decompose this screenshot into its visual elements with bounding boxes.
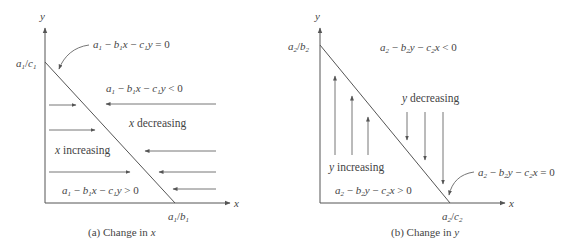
label-y-increasing: y increasing [328, 161, 384, 174]
y-axis-label-a: y [39, 10, 45, 22]
x-axis-label-b: x [508, 197, 514, 209]
y-intercept-a: a1/c1 [16, 57, 36, 71]
y-intercept-b: a2/b2 [288, 40, 310, 54]
isocline-label-a: a1 − b1x − c1y = 0 [93, 38, 170, 52]
region-above-b: a2 − b2y − c2x < 0 [380, 41, 457, 55]
region-below-a: a1 − b1x − c1y > 0 [62, 184, 139, 198]
label-x-decreasing: x decreasing [128, 117, 186, 130]
region-below-b: a2 − b2y − c2x > 0 [335, 184, 412, 198]
panel-a: y x a1/c1 a1/b1 a1 − b1x − c1y = 0 a1 − … [16, 10, 239, 239]
label-x-increasing: x increasing [54, 144, 110, 157]
pointer-arrow-b [449, 172, 474, 195]
label-y-decreasing: y decreasing [401, 92, 459, 105]
caption-a: (a) Change in x [88, 226, 156, 239]
pointer-arrow-a [59, 45, 89, 69]
region-above-a: a1 − b1x − c1y < 0 [106, 82, 183, 96]
panel-b: y x a2/b2 a2/c2 a2 − b2y − c2x < 0 a2 − … [288, 10, 555, 239]
y-axis-label-b: y [314, 10, 320, 22]
isocline-label-b: a2 − b2y − c2x = 0 [478, 166, 555, 180]
x-axis-label-a: x [233, 197, 239, 209]
x-intercept-a: a1/b1 [168, 210, 189, 224]
isocline-b [320, 45, 450, 203]
x-intercept-b: a2/c2 [442, 210, 463, 224]
caption-b: (b) Change in y [391, 226, 459, 239]
phase-diagrams: y x a1/c1 a1/b1 a1 − b1x − c1y = 0 a1 − … [0, 0, 574, 252]
